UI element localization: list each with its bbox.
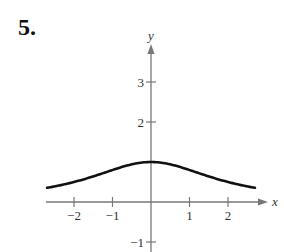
x-axis-arrow-icon <box>258 199 268 206</box>
x-tick-label: 1 <box>186 208 193 223</box>
y-tick-label: 2 <box>138 115 145 130</box>
y-axis-arrow-icon <box>148 44 155 54</box>
chart: xy −2−112−123 <box>0 0 284 252</box>
x-axis-label: x <box>271 194 278 209</box>
x-tick-label: −1 <box>106 208 120 223</box>
y-tick-label: −1 <box>130 235 144 250</box>
y-tick-label: 3 <box>138 75 145 90</box>
y-axis-label: y <box>146 28 154 43</box>
x-tick-label: 2 <box>225 208 232 223</box>
x-tick-label: −2 <box>67 208 81 223</box>
